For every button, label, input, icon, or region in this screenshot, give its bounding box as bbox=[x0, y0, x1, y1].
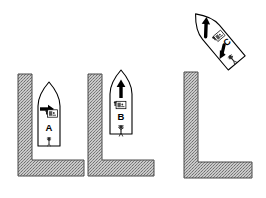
boat-b[interactable]: B bbox=[110, 70, 132, 136]
diagram-svg: A B bbox=[0, 0, 266, 198]
boat-label-b: B bbox=[118, 111, 125, 122]
boat-label-a: A bbox=[46, 122, 53, 133]
figure-canvas: A B bbox=[0, 0, 266, 198]
